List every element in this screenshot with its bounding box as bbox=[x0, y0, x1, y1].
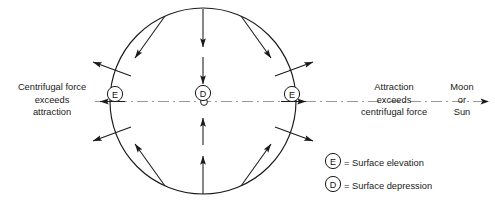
vector-upper-right-diagonal bbox=[241, 16, 271, 58]
elevation-marker-left-letter: E bbox=[112, 90, 118, 100]
vector-lower-left-diagonal bbox=[135, 144, 165, 186]
marker-group: D E E bbox=[107, 85, 299, 105]
vector-upper-left-diagonal bbox=[135, 16, 165, 58]
label-moon-or-sun: Moon or Sun bbox=[438, 81, 486, 119]
label-right-line3: centrifugal force bbox=[348, 106, 440, 119]
label-left-line2: exceeds bbox=[4, 94, 100, 107]
depression-marker-letter: D bbox=[200, 89, 207, 99]
tidal-force-diagram: D E E E D Centrifugal force exceeds attr… bbox=[0, 0, 495, 202]
legend-depression-letter: D bbox=[330, 180, 337, 190]
vector-lower-right-diagonal bbox=[241, 144, 271, 186]
vector-left-upper-outward bbox=[93, 62, 131, 76]
label-body-line3: Sun bbox=[438, 106, 486, 119]
legend-depression-label: = Surface depression bbox=[344, 181, 432, 191]
vector-left-lower-outward bbox=[93, 127, 131, 141]
label-body-line2: or bbox=[438, 94, 486, 107]
label-left-line3: attraction bbox=[4, 106, 100, 119]
legend-elevation-label: = Surface elevation bbox=[344, 158, 424, 168]
label-left-line1: Centrifugal force bbox=[4, 81, 100, 94]
legend-symbol-group: E D bbox=[325, 153, 340, 191]
label-centrifugal-exceeds-attraction: Centrifugal force exceeds attraction bbox=[4, 81, 100, 119]
label-right-line2: exceeds bbox=[348, 94, 440, 107]
legend-elevation-letter: E bbox=[330, 157, 336, 167]
vector-right-lower-outward bbox=[275, 127, 313, 141]
label-right-line1: Attraction bbox=[348, 81, 440, 94]
vector-right-upper-outward bbox=[275, 62, 313, 76]
elevation-marker-right-letter: E bbox=[289, 90, 295, 100]
label-attraction-exceeds-centrifugal: Attraction exceeds centrifugal force bbox=[348, 81, 440, 119]
label-body-line1: Moon bbox=[438, 81, 486, 94]
